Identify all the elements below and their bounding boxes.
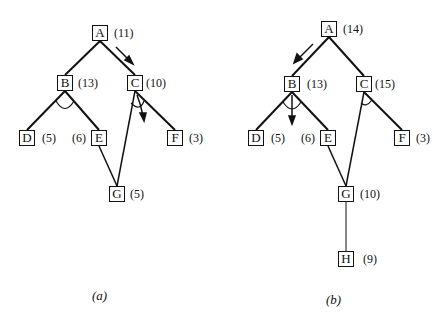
node-b-cost: (13) (78, 76, 98, 90)
node-g-cost: (5) (130, 187, 144, 201)
node-c: C (127, 75, 143, 91)
node-e: E (91, 130, 107, 146)
node-f: F (167, 130, 183, 146)
node-b: B (284, 76, 300, 92)
node-b-cost: (13) (307, 77, 327, 91)
node-e: E (320, 130, 336, 146)
node-d: D (19, 130, 35, 146)
node-a: A (321, 21, 337, 37)
graph-edges (0, 0, 447, 332)
node-h: H (338, 251, 354, 267)
node-g-cost: (10) (360, 187, 380, 201)
node-g: G (338, 186, 354, 202)
node-f-cost: (3) (416, 131, 430, 145)
node-e-cost: (6) (72, 131, 86, 145)
node-b: B (57, 75, 73, 91)
node-d: D (248, 130, 264, 146)
node-a-cost: (14) (343, 22, 363, 36)
node-a-cost: (11) (114, 26, 134, 40)
node-d-cost: (5) (42, 131, 56, 145)
node-h-cost: (9) (363, 252, 377, 266)
node-d-cost: (5) (271, 131, 285, 145)
and-arc-icon (56, 101, 74, 109)
node-g: G (109, 186, 125, 202)
node-c: C (356, 76, 372, 92)
node-c-cost: (10) (146, 76, 166, 90)
caption-a: (a) (92, 288, 107, 304)
node-f-cost: (3) (189, 131, 203, 145)
node-c-cost: (15) (375, 77, 395, 91)
node-f: F (394, 130, 410, 146)
node-a: A (92, 25, 108, 41)
node-e-cost: (6) (301, 131, 315, 145)
caption-b: (b) (326, 292, 341, 308)
